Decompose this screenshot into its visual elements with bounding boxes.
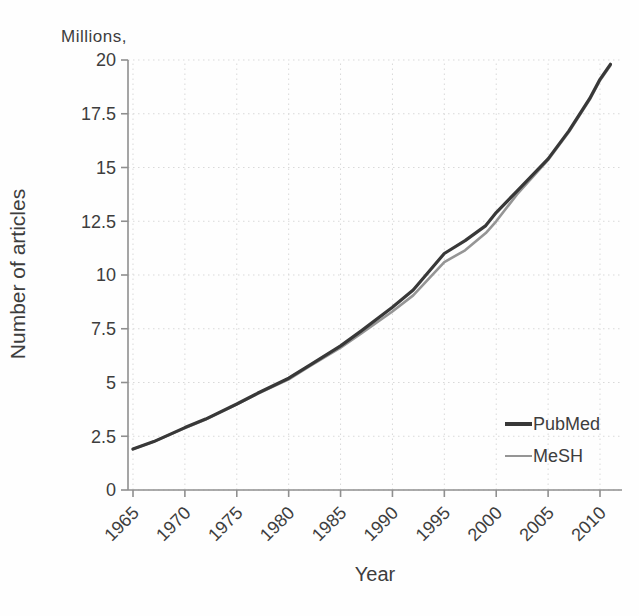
x-tick-label: 2005 bbox=[515, 503, 557, 545]
pubmed-line-swatch-icon bbox=[505, 422, 532, 425]
x-tick-label: 1980 bbox=[256, 503, 298, 545]
x-axis-title: Year bbox=[128, 563, 622, 586]
pubmed-line bbox=[133, 64, 610, 449]
legend-label-pubmed: PubMed bbox=[533, 414, 600, 435]
y-tick-label: 2.5 bbox=[91, 427, 116, 447]
x-tick-labels: 1965197019751980198519901995200020052010 bbox=[100, 503, 609, 545]
legend: PubMed MeSH bbox=[505, 411, 600, 475]
legend-item-mesh: MeSH bbox=[505, 443, 600, 469]
chart-figure: 02.557.51012.51517.520196519701975198019… bbox=[0, 0, 639, 616]
y-tick-label: 10 bbox=[96, 265, 116, 285]
x-tick-label: 1965 bbox=[100, 503, 142, 545]
x-tick-label: 1995 bbox=[412, 503, 454, 545]
legend-item-pubmed: PubMed bbox=[505, 411, 600, 437]
x-tick-label: 1990 bbox=[360, 503, 402, 545]
y-tick-label: 5 bbox=[106, 373, 116, 393]
y-tick-label: 12.5 bbox=[81, 212, 116, 232]
y-tick-label: 20 bbox=[96, 50, 116, 70]
x-tick-label: 2010 bbox=[567, 503, 609, 545]
x-tick-label: 2000 bbox=[464, 503, 506, 545]
x-tick-label: 1970 bbox=[152, 503, 194, 545]
y-axis-title: Number of articles bbox=[6, 164, 30, 384]
y-axis-unit-label: Millions, bbox=[35, 27, 127, 47]
plot-area: 02.557.51012.51517.520196519701975198019… bbox=[0, 0, 639, 616]
x-tick-label: 1985 bbox=[308, 503, 350, 545]
y-tick-label: 0 bbox=[106, 480, 116, 500]
legend-label-mesh: MeSH bbox=[533, 446, 583, 467]
mesh-line bbox=[133, 65, 610, 449]
y-tick-label: 17.5 bbox=[81, 104, 116, 124]
mesh-line-swatch-icon bbox=[505, 455, 532, 458]
y-tick-labels: 02.557.51012.51517.520 bbox=[81, 50, 116, 500]
x-tick-label: 1975 bbox=[204, 503, 246, 545]
y-tick-label: 15 bbox=[96, 158, 116, 178]
y-tick-label: 7.5 bbox=[91, 319, 116, 339]
